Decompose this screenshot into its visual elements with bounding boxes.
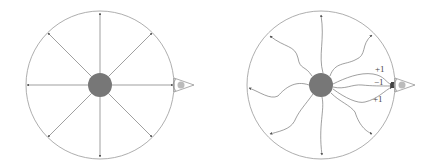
detector-mark — [391, 82, 394, 88]
phase-label-bottom: +1 — [373, 94, 383, 104]
diagram-canvas: +1 −1 +1 — [0, 0, 438, 165]
wavy-ray-diagram: +1 −1 +1 — [247, 11, 415, 159]
phase-label-middle: −1 — [374, 77, 384, 87]
phase-label-top: +1 — [375, 64, 385, 74]
eye-icon — [394, 78, 415, 92]
eye-icon — [173, 78, 194, 92]
straight-ray-diagram — [26, 11, 194, 159]
central-mass — [88, 73, 112, 97]
central-mass — [309, 73, 333, 97]
